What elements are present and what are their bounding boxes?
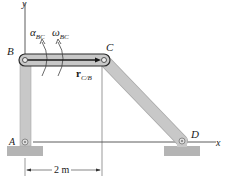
label-a: A: [9, 137, 15, 147]
alpha-bc-label: αBC: [30, 27, 45, 41]
dim-arrow-right: [96, 169, 101, 172]
label-b: B: [7, 46, 14, 57]
member-cd: [104, 60, 182, 141]
r-cb-label: rC/B: [76, 68, 92, 82]
pin-d-center: [181, 140, 183, 142]
pin-a-center: [24, 141, 26, 143]
label-c: C: [106, 42, 113, 53]
x-axis-label: x: [216, 138, 220, 148]
omega-subscript: BC: [60, 33, 69, 41]
y-axis-label: y: [22, 0, 26, 9]
pin-b: [23, 58, 28, 63]
omega-bc-label: ωBC: [52, 27, 69, 41]
pin-c: [102, 58, 107, 63]
linkage-diagram: y x B C A D αBC ωBC rC/B 2 m: [0, 0, 225, 183]
label-d: D: [191, 129, 199, 140]
r-subscript: C/B: [81, 74, 92, 82]
ground-d: [164, 146, 200, 156]
member-ab: [20, 60, 31, 146]
ground-a: [7, 146, 43, 156]
omega-symbol: ω: [52, 26, 60, 38]
dimension-label: 2 m: [52, 165, 71, 175]
dim-arrow-left: [26, 169, 31, 172]
alpha-subscript: BC: [36, 33, 45, 41]
